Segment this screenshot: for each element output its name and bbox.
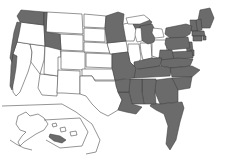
island-maui	[70, 131, 77, 136]
state-nevada	[30, 44, 45, 74]
state-wyoming	[60, 34, 83, 51]
island-kauai	[52, 123, 57, 127]
inset-divider-line	[2, 104, 100, 154]
lake-michigan	[135, 28, 142, 42]
state-arkansas	[115, 79, 130, 92]
state-rhode-island	[203, 36, 206, 40]
state-pennsylvania	[165, 37, 190, 50]
island-hawaii-big-island	[49, 134, 66, 143]
inset-alaska	[2, 104, 100, 154]
state-minnesota	[105, 12, 126, 43]
state-montana	[46, 12, 83, 34]
state-new-mexico	[57, 70, 80, 94]
state-maryland	[171, 51, 193, 59]
state-north-dakota	[84, 14, 106, 28]
map-svg	[0, 0, 236, 166]
island-oahu	[60, 127, 66, 132]
state-connecticut	[193, 36, 202, 41]
state-oregon-interior	[17, 22, 45, 46]
state-alaska	[16, 112, 48, 146]
state-massachusetts	[192, 31, 205, 36]
state-iowa	[107, 41, 128, 54]
state-alabama	[142, 79, 156, 104]
inset-hawaii	[44, 118, 88, 148]
state-north-carolina	[170, 66, 200, 77]
state-indiana	[140, 43, 152, 60]
state-nebraska	[84, 42, 110, 53]
state-south-dakota	[84, 28, 105, 42]
state-colorado	[61, 51, 85, 70]
state-kansas	[86, 53, 112, 68]
state-florida	[150, 102, 184, 150]
state-arizona	[38, 74, 58, 96]
hawaii-inset-border	[44, 118, 88, 148]
us-choropleth-map	[0, 0, 236, 166]
